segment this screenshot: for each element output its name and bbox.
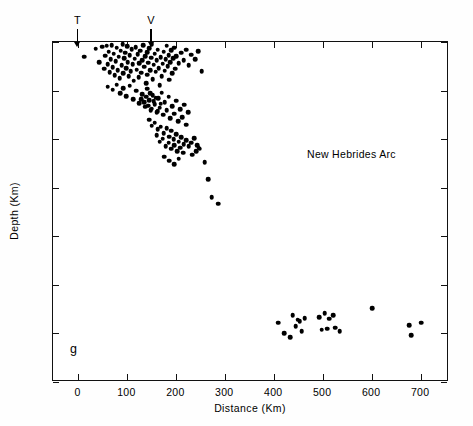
x-tick-label: 600 xyxy=(362,386,380,398)
x-tick-label: 0 xyxy=(74,386,80,398)
x-tick-label: 400 xyxy=(264,386,282,398)
axes-decorations: 0100200300400500600700010020030040050060… xyxy=(0,0,473,426)
panel-label: g xyxy=(70,342,77,356)
y-axis-title: Depth (Km) xyxy=(8,182,20,240)
x-tick-label: 500 xyxy=(313,386,331,398)
x-axis-title: Distance (Km) xyxy=(214,402,286,414)
x-tick-label: 200 xyxy=(166,386,184,398)
x-tick-label: 700 xyxy=(411,386,429,398)
seismicity-cross-section-figure: TV 0100200300400500600700010020030040050… xyxy=(0,0,473,426)
x-tick-label: 300 xyxy=(215,386,233,398)
x-tick-label: 100 xyxy=(117,386,135,398)
region-label: New Hebrides Arc xyxy=(307,148,396,160)
